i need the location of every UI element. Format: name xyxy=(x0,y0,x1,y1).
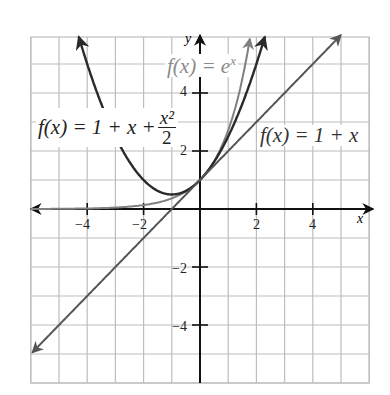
y-tick-label: −2 xyxy=(172,262,187,276)
linear-curve-label: f(x) = 1 + x xyxy=(258,125,360,146)
x-tick-label: −4 xyxy=(75,218,90,232)
y-axis-label: y xyxy=(185,32,191,46)
y-tick-label: −4 xyxy=(172,320,187,334)
y-tick-label: 2 xyxy=(180,144,187,158)
quad-label-text: f(x) = 1 + x + xyxy=(38,117,156,138)
x-tick-label: 2 xyxy=(253,218,260,232)
fraction: x² 2 xyxy=(158,108,176,147)
quadratic-curve-label: f(x) = 1 + x + x² 2 xyxy=(36,108,178,147)
x-tick-label: 4 xyxy=(309,218,316,232)
y-tick-label: 4 xyxy=(180,85,187,99)
curve-2 xyxy=(32,35,341,353)
exp-curve-label: f(x) = ex xyxy=(165,54,238,77)
curves xyxy=(31,35,341,353)
exp-label-sup: x xyxy=(230,53,236,68)
exp-label-text: f(x) = e xyxy=(167,54,230,78)
quad-label-numerator: x² xyxy=(158,108,176,128)
x-axis-label: x xyxy=(357,212,363,226)
quad-label-denominator: 2 xyxy=(162,128,172,147)
x-tick-label: −2 xyxy=(132,218,147,232)
